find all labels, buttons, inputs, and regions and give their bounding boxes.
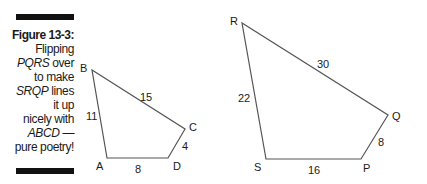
vertex-label-r: R bbox=[230, 15, 238, 27]
side-length-cd: 4 bbox=[182, 140, 188, 152]
side-length-qp: 8 bbox=[378, 136, 384, 148]
side-length-sr: 22 bbox=[238, 92, 250, 104]
side-length-ps: 16 bbox=[308, 164, 320, 176]
side-length-rq: 30 bbox=[317, 58, 329, 70]
vertex-label-p: P bbox=[363, 162, 370, 174]
pqrs-outline bbox=[242, 23, 388, 159]
vertex-label-s: S bbox=[254, 161, 261, 173]
quadrilateral-abcd: B A C D 11 15 4 8 bbox=[80, 62, 197, 175]
geometry-figure: B A C D 11 15 4 8 R Q P S 22 30 8 16 bbox=[0, 0, 427, 184]
abcd-outline bbox=[92, 70, 185, 158]
quadrilateral-pqrs: R Q P S 22 30 8 16 bbox=[230, 15, 401, 176]
vertex-label-d: D bbox=[173, 160, 181, 172]
vertex-label-c: C bbox=[189, 121, 197, 133]
side-length-ab: 11 bbox=[86, 110, 97, 122]
vertex-label-q: Q bbox=[392, 110, 401, 122]
side-length-da: 8 bbox=[135, 163, 141, 175]
side-length-bc: 15 bbox=[140, 91, 152, 103]
vertex-label-a: A bbox=[96, 160, 104, 172]
vertex-label-b: B bbox=[80, 62, 87, 74]
